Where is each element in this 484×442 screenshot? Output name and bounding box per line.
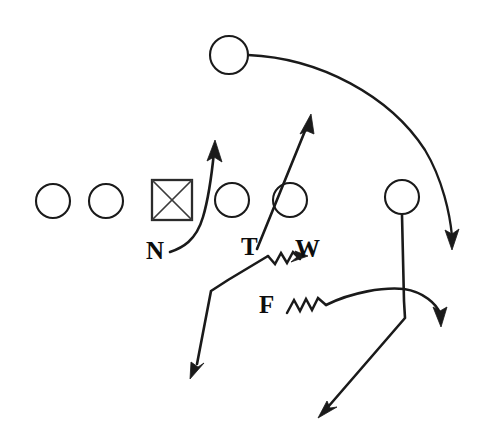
route-back-right-drop-path — [328, 215, 405, 407]
route-back-right-drop[interactable] — [318, 215, 405, 418]
route-tackle-slant[interactable] — [257, 114, 314, 249]
route-back-right-drop-arrowhead — [318, 401, 337, 418]
player-center[interactable] — [152, 180, 192, 220]
route-free-blitz-path — [326, 289, 440, 313]
route-will-blitz-path — [197, 256, 268, 364]
player-ol-1[interactable] — [36, 184, 70, 218]
player-ol-2[interactable] — [89, 184, 123, 218]
play-diagram: N T W F — [0, 0, 484, 442]
route-deep-back-sweep[interactable] — [248, 55, 459, 250]
player-back-right[interactable] — [385, 180, 419, 214]
player-ol-3[interactable] — [215, 183, 249, 217]
route-free-blitz-zigzag — [287, 298, 326, 313]
label-nose-tackle: N — [146, 238, 164, 263]
offensive-line-group — [36, 180, 307, 220]
label-free-safety: F — [259, 292, 274, 317]
play-diagram-canvas — [0, 0, 484, 442]
label-will-linebacker: W — [295, 236, 320, 261]
player-deep-back-top[interactable] — [210, 36, 248, 74]
route-free-blitz-arrowhead — [433, 307, 447, 327]
route-tackle-slant-arrowhead — [300, 114, 314, 134]
route-will-blitz[interactable] — [190, 251, 308, 379]
route-free-blitz[interactable] — [287, 289, 447, 327]
label-tackle: T — [241, 234, 258, 259]
